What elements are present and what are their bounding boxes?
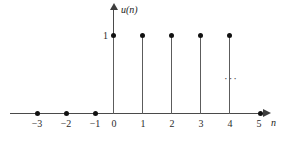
y-tick-label-1: 1 [96, 30, 108, 41]
stem-n2 [171, 36, 172, 114]
data-point-n0 [111, 33, 116, 38]
data-point-nm3 [35, 111, 40, 116]
stem-n1 [142, 36, 143, 114]
continuation-ellipsis: ··· [224, 72, 238, 84]
unit-step-stem-plot: u(n) n 1 ··· −3 −2 −1 0 1 2 3 4 5 [0, 0, 285, 144]
x-tick-label-3: 3 [191, 118, 211, 130]
data-point-nm2 [64, 111, 69, 116]
x-axis-arrowhead-icon [263, 109, 271, 117]
data-point-n5 [258, 111, 263, 116]
x-tick-label-5: 5 [249, 118, 269, 130]
data-point-nm1 [93, 111, 98, 116]
x-tick-label-2: 2 [162, 118, 182, 130]
stem-n0 [113, 36, 114, 114]
data-point-n3 [198, 33, 203, 38]
data-point-n4 [227, 33, 232, 38]
x-tick-label-minus1: −1 [85, 118, 105, 130]
x-tick-label-minus3: −3 [27, 118, 47, 130]
data-point-n2 [169, 33, 174, 38]
x-tick-label-1: 1 [133, 118, 153, 130]
stem-n3 [200, 36, 201, 114]
x-tick-label-4: 4 [220, 118, 240, 130]
x-tick-label-0: 0 [104, 118, 124, 130]
y-axis-arrowhead-icon [110, 3, 118, 10]
x-tick-label-minus2: −2 [56, 118, 76, 130]
x-axis-label: n [271, 117, 276, 128]
y-axis-label: u(n) [121, 4, 138, 15]
data-point-n1 [140, 33, 145, 38]
